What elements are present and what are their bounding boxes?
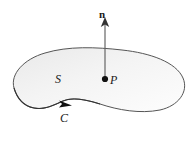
boundary-curve-label: C bbox=[60, 112, 68, 124]
surface-region bbox=[13, 48, 184, 112]
point-p-label: P bbox=[110, 74, 117, 86]
normal-vector-label: n bbox=[99, 9, 105, 20]
curve-direction-arrowhead bbox=[59, 101, 72, 108]
diagram-canvas bbox=[0, 0, 196, 142]
surface-normal-diagram: n P S C bbox=[0, 0, 196, 142]
surface-label: S bbox=[55, 73, 61, 85]
point-p-dot bbox=[102, 76, 108, 82]
